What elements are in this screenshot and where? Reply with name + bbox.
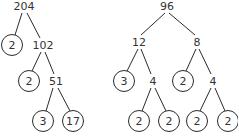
prime-factor-node: 3	[33, 111, 54, 132]
node-label: 2	[225, 115, 232, 128]
prime-factor-node: 2	[2, 35, 23, 56]
tree-nodes: 20421022513179612834242222	[2, 0, 239, 132]
node-label: 17	[66, 115, 80, 128]
node-label: 3	[121, 75, 128, 88]
factor-tree-96-edge	[141, 13, 165, 35]
composite-factor-node: 204	[14, 0, 35, 13]
prime-factor-node: 17	[63, 111, 84, 132]
factor-tree-96-edge	[127, 49, 138, 71]
composite-factor-node: 8	[194, 36, 201, 49]
prime-factor-node: 2	[173, 71, 194, 92]
node-label: 204	[14, 0, 35, 13]
composite-factor-node: 12	[132, 36, 146, 49]
prime-factor-node: 2	[187, 111, 208, 132]
node-label: 4	[150, 75, 157, 88]
prime-factor-node: 2	[218, 111, 239, 132]
prime-factor-node: 2	[159, 111, 180, 132]
factor-tree-96-edge	[155, 88, 166, 111]
tree-edges	[15, 13, 225, 111]
factor-tree-204-edge	[45, 52, 54, 74]
prime-factor-node: 2	[19, 71, 40, 92]
composite-factor-node: 102	[33, 39, 54, 52]
factor-tree-204-edge	[15, 13, 22, 35]
composite-factor-node: 4	[210, 75, 217, 88]
node-label: 2	[9, 39, 16, 52]
node-label: 2	[194, 115, 201, 128]
factor-trees-diagram: 20421022513179612834242222	[0, 0, 238, 136]
prime-factor-node: 2	[129, 111, 150, 132]
factor-tree-96-edge	[169, 13, 195, 35]
composite-factor-node: 96	[160, 0, 174, 13]
node-label: 96	[160, 0, 174, 13]
factor-tree-96-edge	[199, 49, 211, 74]
node-label: 8	[194, 36, 201, 49]
node-label: 4	[210, 75, 217, 88]
node-label: 3	[40, 115, 47, 128]
factor-tree-204-edge	[27, 13, 40, 38]
node-label: 51	[49, 75, 63, 88]
factor-tree-204-edge	[46, 88, 53, 111]
node-label: 2	[136, 115, 143, 128]
factor-tree-96-edge	[141, 49, 151, 74]
factor-tree-204-edge	[58, 88, 70, 111]
factor-tree-96-edge	[200, 88, 211, 111]
factor-tree-204-edge	[32, 52, 41, 71]
composite-factor-node: 51	[49, 75, 63, 88]
factor-tree-96-edge	[215, 88, 225, 111]
composite-factor-node: 4	[150, 75, 157, 88]
node-label: 2	[180, 75, 187, 88]
node-label: 2	[166, 115, 173, 128]
factor-tree-96-edge	[142, 88, 151, 111]
node-label: 12	[132, 36, 146, 49]
factor-tree-96-edge	[186, 49, 196, 71]
prime-factor-node: 3	[114, 71, 135, 92]
node-label: 102	[33, 39, 54, 52]
node-label: 2	[26, 75, 33, 88]
